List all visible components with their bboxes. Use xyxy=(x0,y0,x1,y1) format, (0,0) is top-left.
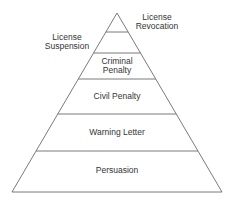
level-criminal-penalty: Criminal Penalty xyxy=(87,57,147,75)
level-warning-letter: Warning Letter xyxy=(67,128,167,137)
level-license-suspension-line2: Suspension xyxy=(40,42,94,51)
level-civil-penalty: Civil Penalty xyxy=(77,92,157,101)
level-criminal-penalty-line2: Penalty xyxy=(87,66,147,75)
level-license-revocation-line2: Revocation xyxy=(132,22,182,31)
level-license-suspension: License Suspension xyxy=(40,33,94,51)
level-persuasion: Persuasion xyxy=(67,166,167,175)
enforcement-pyramid-diagram: License Revocation License Suspension Cr… xyxy=(0,0,234,205)
level-license-revocation: License Revocation xyxy=(132,13,182,31)
